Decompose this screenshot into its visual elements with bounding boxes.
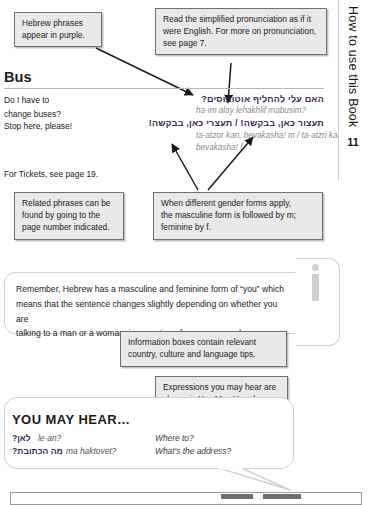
- thumb-tab-page-number: 11: [347, 136, 359, 148]
- info-panel-line-2: means that the sentence changes slightly…: [16, 297, 291, 327]
- callout-purple-phrases-line-2: appear in purple.: [22, 30, 94, 42]
- phrase-english-stop-here: Stop here, please!: [4, 120, 72, 133]
- callout-gender-forms-line-3: feminine by f.: [161, 222, 315, 234]
- phrase-hebrew-stop-here: תעצור כאן, בבקשה! / תעצרי כאן, בבקשה!: [120, 118, 324, 128]
- callout-pronunciation-line-3: see page 7.: [163, 38, 319, 50]
- callout-related-phrases-line-1: Related phrases can be: [22, 198, 116, 210]
- callout-gender-forms-line-1: When different gender forms apply,: [161, 198, 315, 210]
- callout-pronunciation-line-2: were English. For more on pronunciation,: [163, 26, 319, 38]
- you-may-hear-english-1: Where to?: [155, 433, 194, 443]
- callout-related-phrases-line-2: found by going to the: [22, 210, 116, 222]
- callout-info-boxes: Information boxes contain relevant count…: [120, 331, 287, 367]
- callout-pronunciation-line-1: Read the simplified pronunciation as if …: [163, 14, 319, 26]
- callout-gender-forms: When different gender forms apply, the m…: [153, 192, 323, 240]
- phrase-hebrew-change-buses: האם עלי להחליף אוטובוסים?: [120, 94, 324, 104]
- you-may-hear-hebrew-2: מה הכתובת?: [12, 446, 63, 456]
- info-panel-line-1: Remember, Hebrew has a masculine and fem…: [16, 282, 291, 297]
- phrase-pronunciation-stop-here-line-2: bevakasha! f: [196, 142, 242, 154]
- you-may-hear-title: YOU MAY HEAR…: [12, 412, 131, 427]
- info-panel: Remember, Hebrew has a masculine and fem…: [4, 272, 304, 334]
- bottom-partial-fill-b: [263, 494, 301, 499]
- you-may-hear-english-2: What's the address?: [155, 446, 231, 456]
- section-heading-bus: Bus: [4, 69, 32, 85]
- you-may-hear-pronunciation-2: ma haktovet?: [66, 446, 116, 456]
- callout-related-phrases: Related phrases can be found by going to…: [14, 192, 124, 240]
- callout-info-boxes-line-2: country, culture and language tips.: [128, 349, 279, 361]
- bottom-partial-element: [10, 492, 362, 505]
- callout-info-boxes-line-1: Information boxes contain relevant: [128, 337, 279, 349]
- callout-purple-phrases-line-1: Hebrew phrases: [22, 18, 94, 30]
- you-may-hear-pronunciation-1: le-an?: [38, 433, 61, 443]
- info-panel-notch-mask: [292, 273, 304, 333]
- page-canvas: Hebrew phrases appear in purple. Read th…: [0, 0, 367, 505]
- info-i-icon: [312, 264, 319, 301]
- thumb-tab: How to use this Book 11: [338, 0, 367, 180]
- callout-gender-forms-line-2: the masculine form is followed by m;: [161, 210, 315, 222]
- phrase-english-do-i-have-to: Do I have to: [4, 94, 49, 107]
- thumb-tab-label: How to use this Book: [346, 6, 360, 127]
- callout-pronunciation: Read the simplified pronunciation as if …: [155, 8, 327, 55]
- you-may-hear-hebrew-1: לאן?: [12, 433, 31, 443]
- callout-related-phrases-line-3: page number indicated.: [22, 222, 116, 234]
- callout-you-may-hear-line-1: Expressions you may hear are: [163, 382, 280, 394]
- bottom-partial-fill-a: [221, 494, 253, 499]
- section-rule: [4, 88, 324, 89]
- arrow-to-gender-f: [172, 144, 198, 190]
- phrase-pronunciation-stop-here-line-1: ta-atzor kan, bevakasha! m / ta-atzri ka…: [196, 130, 344, 142]
- phrase-pronunciation-change-buses: ha-im alay lehakhlif mabusim?: [196, 105, 306, 117]
- cross-reference-tickets: For Tickets, see page 19.: [4, 169, 98, 179]
- callout-purple-phrases: Hebrew phrases appear in purple.: [14, 12, 102, 47]
